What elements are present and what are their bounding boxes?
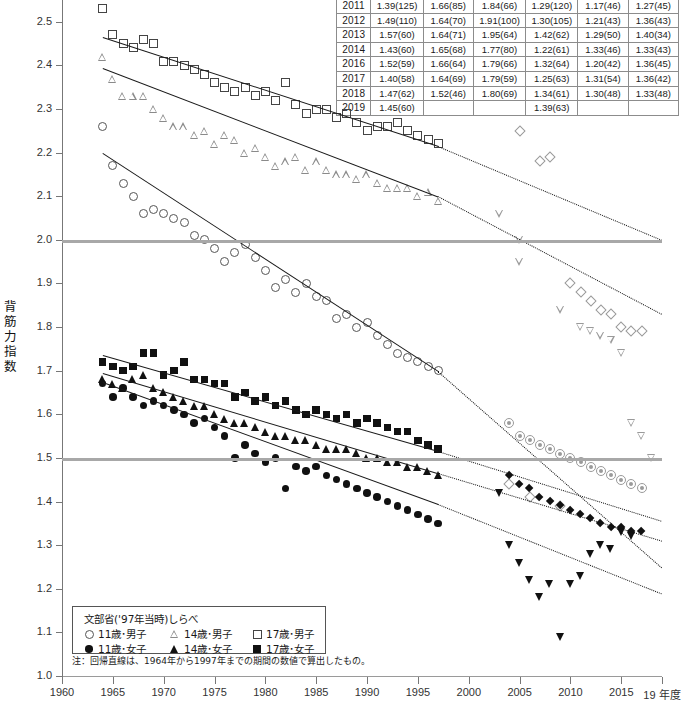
data-point	[404, 428, 412, 436]
x-axis-tick	[316, 677, 317, 684]
x-axis-tick-label: 1990	[355, 686, 379, 698]
data-point-recent	[505, 541, 513, 549]
x-axis-tick-label: 1970	[151, 686, 175, 698]
data-point	[301, 436, 309, 444]
x-axis-tick	[662, 677, 663, 684]
data-point	[149, 105, 157, 113]
data-point	[384, 424, 392, 432]
data-point	[281, 78, 290, 87]
data-point	[190, 419, 198, 427]
data-point-recent	[535, 593, 543, 601]
regression-line	[102, 382, 438, 505]
y-axis-tick-label: 2.0	[6, 233, 52, 245]
y-axis-tick-label: 2.4	[6, 58, 52, 70]
data-point	[424, 515, 432, 523]
data-point-recent	[607, 336, 615, 344]
legend-label: 17歳･男子	[266, 626, 314, 641]
data-point	[414, 437, 422, 445]
x-axis-tick-label: 2000	[457, 686, 481, 698]
data-point-recent	[596, 466, 606, 476]
data-point	[220, 131, 228, 139]
data-point-recent	[636, 326, 647, 337]
data-point	[149, 205, 158, 214]
data-point	[281, 157, 289, 165]
data-point	[180, 358, 188, 366]
legend-label: 14歳･男子	[184, 626, 232, 641]
y-axis-tick	[56, 327, 63, 328]
data-point-recent	[545, 497, 554, 506]
data-point-recent	[545, 580, 553, 588]
data-point	[240, 419, 248, 427]
data-point	[108, 30, 117, 39]
data-point	[220, 415, 228, 423]
data-point-recent	[504, 418, 514, 428]
x-axis-tick-label: 1975	[202, 686, 226, 698]
data-point	[323, 411, 331, 419]
data-point	[210, 140, 218, 148]
data-point	[98, 53, 106, 61]
data-point	[99, 358, 107, 366]
data-point	[281, 275, 290, 284]
x-axis-tick	[113, 677, 114, 684]
x-axis-tick-label: 19 年度	[643, 686, 680, 702]
data-point	[140, 402, 148, 410]
data-point-recent	[637, 432, 645, 440]
data-point	[323, 472, 331, 480]
data-point-recent	[556, 306, 564, 314]
y-axis-tick-label: 1.7	[6, 364, 52, 376]
data-point-recent	[626, 326, 637, 337]
data-point	[394, 502, 402, 510]
data-point-recent	[504, 478, 515, 489]
data-point	[363, 489, 371, 497]
legend-symbol-filled-circle	[85, 645, 93, 653]
x-axis-tick-label: 2015	[609, 686, 633, 698]
data-point-recent	[575, 287, 586, 298]
data-point-recent	[576, 572, 584, 580]
y-axis-tick	[56, 632, 63, 633]
data-point	[312, 157, 320, 165]
y-axis-tick	[56, 589, 63, 590]
data-point-recent	[535, 440, 545, 450]
data-point-recent	[616, 475, 626, 485]
data-point	[332, 170, 340, 178]
data-point-recent	[544, 151, 555, 162]
data-point	[139, 92, 147, 100]
data-point-recent	[495, 210, 503, 218]
data-point	[241, 441, 249, 449]
data-point	[271, 162, 279, 170]
data-point	[281, 432, 289, 440]
y-axis-tick	[56, 153, 63, 154]
data-point	[302, 467, 310, 475]
data-point	[251, 144, 259, 152]
data-point-recent	[586, 462, 596, 472]
data-point	[384, 498, 392, 506]
data-point-recent	[515, 258, 523, 266]
y-axis-title-char: 力	[2, 330, 18, 345]
data-point	[363, 415, 371, 423]
data-point-recent	[606, 545, 614, 553]
data-point	[150, 349, 158, 357]
data-point-recent	[545, 444, 555, 454]
data-point	[271, 283, 280, 292]
data-point-recent	[566, 580, 574, 588]
data-point	[210, 244, 219, 253]
y-axis-tick	[56, 283, 63, 284]
data-point	[170, 367, 178, 375]
x-axis-tick-label: 1985	[304, 686, 328, 698]
data-point-recent	[556, 633, 564, 641]
x-axis-tick-label: 2010	[558, 686, 582, 698]
data-point	[333, 476, 341, 484]
data-point	[190, 402, 198, 410]
plot-area	[62, 0, 662, 676]
data-point	[261, 266, 270, 275]
data-point	[149, 39, 158, 48]
data-point-recent	[525, 576, 533, 584]
data-point	[220, 83, 229, 92]
legend-symbol-open-triangle-up	[170, 630, 178, 638]
x-axis-tick-label: 1980	[253, 686, 277, 698]
data-point	[221, 432, 229, 440]
data-point	[343, 411, 351, 419]
data-point-recent	[626, 479, 636, 489]
y-axis-tick-label: 1.8	[6, 320, 52, 332]
